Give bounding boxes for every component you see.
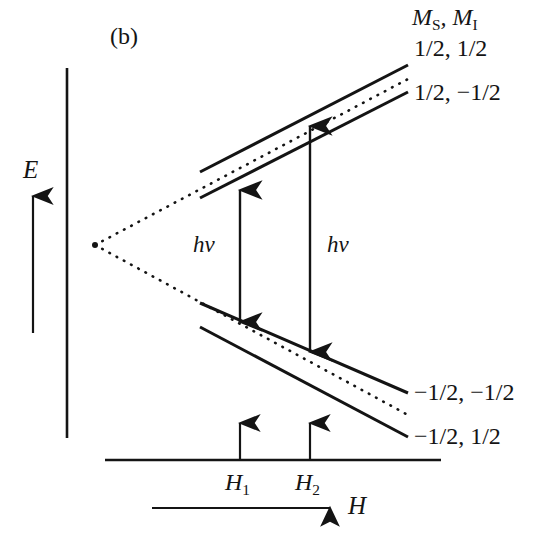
figure-canvas: (b) E H MS, MI 1/2, 1/2 1/2, −1/2 −1/2, … [0, 0, 534, 541]
state-label-lower-2: −1/2, 1/2 [414, 424, 501, 448]
level-line-lower-1 [200, 303, 408, 393]
field-marker-label-h2: H2 [295, 470, 320, 497]
level-line-upper-1 [200, 65, 408, 172]
header-mi-symbol: M [453, 4, 473, 30]
quantum-number-header: MS, MI [412, 5, 478, 32]
state-label-upper-2: 1/2, −1/2 [414, 80, 501, 104]
header-ms-subscript: S [432, 16, 441, 33]
transition-label-h2: hν [327, 233, 349, 256]
energy-axis-label: E [23, 157, 38, 182]
dotted-level-upper [95, 79, 408, 245]
level-line-upper-2 [200, 92, 408, 198]
field-marker-h2-subscript: 2 [312, 481, 320, 498]
transition-label-h1: hν [193, 233, 215, 256]
state-label-lower-1: −1/2, −1/2 [414, 380, 514, 404]
dotted-level-lower [95, 245, 408, 415]
state-label-upper-1: 1/2, 1/2 [414, 36, 487, 60]
field-marker-h2-symbol: H [295, 469, 312, 495]
field-axis-label: H [348, 493, 366, 518]
degeneracy-point [92, 242, 98, 248]
header-mi-subscript: I [473, 16, 478, 33]
field-marker-label-h1: H1 [225, 470, 250, 497]
field-marker-h1-subscript: 1 [242, 481, 250, 498]
header-ms-symbol: M [412, 4, 432, 30]
header-comma: , [441, 4, 453, 30]
level-line-lower-2 [200, 327, 408, 437]
field-marker-h1-symbol: H [225, 469, 242, 495]
panel-tag: (b) [110, 24, 138, 48]
